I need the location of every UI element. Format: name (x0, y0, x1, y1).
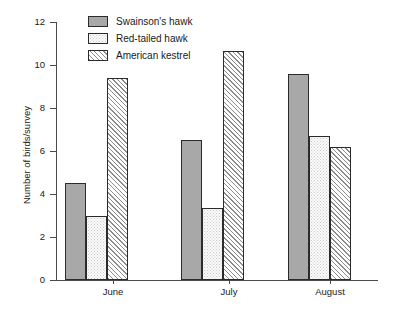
x-axis-label-july: July (189, 287, 269, 297)
x-tick-june (113, 280, 114, 284)
x-tick-august (330, 280, 331, 284)
bar-june-swainsons-hawk (65, 183, 86, 280)
legend-label-red-tailed-hawk: Red-tailed hawk (116, 33, 188, 44)
legend-swatch-hatch-icon (88, 50, 108, 61)
y-tick-4 (50, 194, 56, 195)
bar-august-red-tailed-hawk (309, 136, 330, 280)
y-tick-label-8: 8 (5, 103, 45, 113)
legend: Swainson's hawk Red-tailed hawk American… (88, 13, 192, 64)
y-tick-label-2: 2 (5, 232, 45, 242)
y-tick-label-10: 10 (5, 60, 45, 70)
legend-swatch-dots-icon (88, 33, 108, 44)
y-tick-label-6: 6 (5, 146, 45, 156)
y-tick-label-12: 12 (5, 17, 45, 27)
y-tick-label-0: 0 (5, 275, 45, 285)
y-tick-10 (50, 65, 56, 66)
y-tick-6 (50, 151, 56, 152)
bar-july-american-kestrel (223, 51, 244, 280)
legend-label-swainsons-hawk: Swainson's hawk (116, 16, 192, 27)
legend-item-swainsons-hawk: Swainson's hawk (88, 13, 192, 29)
bar-august-swainsons-hawk (288, 74, 309, 280)
x-axis-label-august: August (290, 287, 370, 297)
y-tick-label-4: 4 (5, 189, 45, 199)
y-axis-line (56, 22, 57, 281)
bar-june-red-tailed-hawk (86, 216, 107, 281)
legend-item-red-tailed-hawk: Red-tailed hawk (88, 30, 192, 46)
x-tick-july (229, 280, 230, 284)
bar-august-american-kestrel (330, 147, 351, 280)
y-tick-2 (50, 237, 56, 238)
bird-survey-bar-chart: Number of birds/survey 12 10 8 6 4 2 0 J… (0, 0, 397, 311)
x-axis-label-june: June (73, 287, 153, 297)
legend-label-american-kestrel: American kestrel (116, 50, 190, 61)
bar-july-swainsons-hawk (181, 140, 202, 280)
y-tick-12 (50, 22, 56, 23)
legend-swatch-solid-icon (88, 16, 108, 27)
bar-june-american-kestrel (107, 78, 128, 280)
y-tick-8 (50, 108, 56, 109)
legend-item-american-kestrel: American kestrel (88, 47, 192, 63)
bar-july-red-tailed-hawk (202, 208, 223, 280)
